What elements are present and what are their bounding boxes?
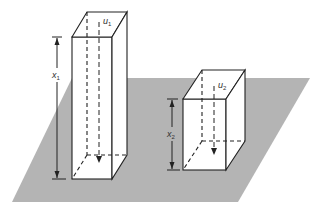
diagram-canvas: u1 x1 u2 x2	[0, 0, 327, 212]
